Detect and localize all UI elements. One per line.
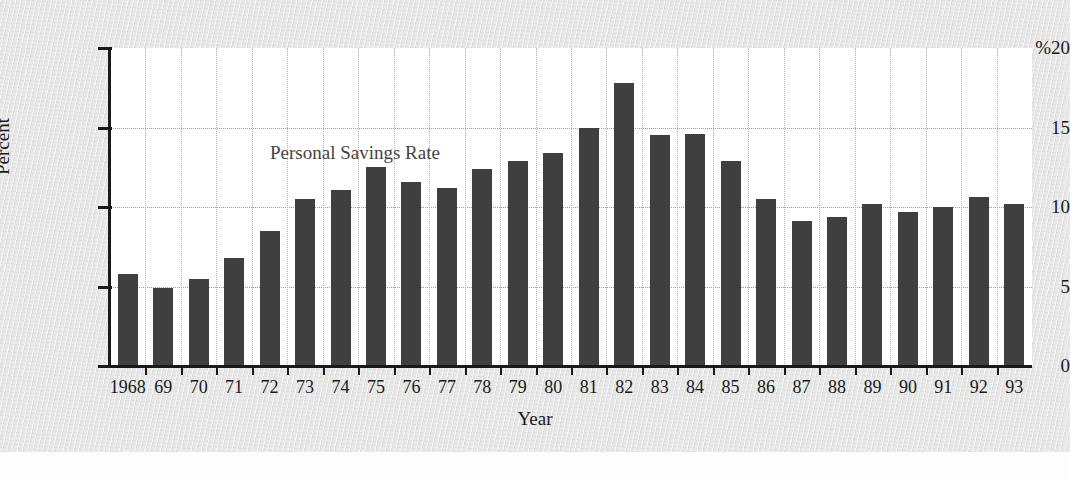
gridline-x-86 xyxy=(784,48,785,366)
x-tick-73 xyxy=(323,368,325,375)
bar-73[interactable] xyxy=(295,199,315,366)
gridline-x-79 xyxy=(536,48,537,366)
bar-76[interactable] xyxy=(401,182,421,366)
y-tick-label-15: 15 xyxy=(978,118,1070,137)
x-tick-81 xyxy=(606,368,608,375)
bar-85[interactable] xyxy=(721,161,741,366)
x-tick-90 xyxy=(926,368,928,375)
gridline-x-84 xyxy=(713,48,714,366)
gridline-x-70 xyxy=(216,48,217,366)
gridline-x-80 xyxy=(571,48,572,366)
x-tick-91 xyxy=(961,368,963,375)
gridline-x-75 xyxy=(394,48,395,366)
x-tick-77 xyxy=(465,368,467,375)
bar-74[interactable] xyxy=(331,190,351,366)
bar-88[interactable] xyxy=(827,217,847,366)
gridline-x-77 xyxy=(465,48,466,366)
x-tick-88 xyxy=(855,368,857,375)
y-tick-label-20: %20 xyxy=(978,38,1070,57)
bar-86[interactable] xyxy=(756,199,776,366)
y-tick-10 xyxy=(98,206,112,209)
figure-background-panel: 051015%20 196869707172737475767778798081… xyxy=(0,0,1070,452)
x-axis-title: Year xyxy=(0,408,1070,430)
bar-78[interactable] xyxy=(472,169,492,366)
x-tick-86 xyxy=(784,368,786,375)
bar-91[interactable] xyxy=(933,207,953,366)
bar-82[interactable] xyxy=(614,83,634,366)
x-tick-76 xyxy=(429,368,431,375)
y-tick-label-0: 0 xyxy=(978,356,1070,375)
bar-77[interactable] xyxy=(437,188,457,366)
plot-area xyxy=(110,48,1032,366)
gridline-x-78 xyxy=(500,48,501,366)
x-tick-89 xyxy=(890,368,892,375)
x-tick-69 xyxy=(181,368,183,375)
bar-87[interactable] xyxy=(792,221,812,366)
bar-75[interactable] xyxy=(366,167,386,366)
bar-69[interactable] xyxy=(153,288,173,366)
gridline-x-85 xyxy=(748,48,749,366)
y-tick-15 xyxy=(98,127,112,130)
gridline-x-89 xyxy=(890,48,891,366)
bar-80[interactable] xyxy=(543,153,563,366)
x-tick-82 xyxy=(642,368,644,375)
y-tick-0 xyxy=(98,365,112,368)
gridline-x-76 xyxy=(429,48,430,366)
chart-title: Personal Savings Rate xyxy=(270,142,440,164)
gridline-x-73 xyxy=(323,48,324,366)
gridline-x-87 xyxy=(819,48,820,366)
x-tick-83 xyxy=(677,368,679,375)
x-tick-label-93: 93 xyxy=(979,378,1050,396)
x-tick-85 xyxy=(748,368,750,375)
gridline-x-72 xyxy=(287,48,288,366)
x-tick-70 xyxy=(216,368,218,375)
gridline-x-91 xyxy=(961,48,962,366)
x-tick-84 xyxy=(713,368,715,375)
bar-70[interactable] xyxy=(189,279,209,366)
bar-72[interactable] xyxy=(260,231,280,366)
y-tick-20 xyxy=(98,47,112,50)
y-tick-label-10: 10 xyxy=(978,197,1070,216)
bar-79[interactable] xyxy=(508,161,528,366)
x-axis-line xyxy=(108,365,1032,368)
gridline-x-83 xyxy=(677,48,678,366)
x-tick-1968 xyxy=(145,368,147,375)
bar-1968[interactable] xyxy=(118,274,138,366)
gridline-x-74 xyxy=(358,48,359,366)
x-tick-92 xyxy=(997,368,999,375)
x-tick-72 xyxy=(287,368,289,375)
gridline-x-90 xyxy=(926,48,927,366)
bar-90[interactable] xyxy=(898,212,918,366)
x-tick-78 xyxy=(500,368,502,375)
gridline-x-88 xyxy=(855,48,856,366)
gridline-x-82 xyxy=(642,48,643,366)
x-tick-74 xyxy=(358,368,360,375)
gridline-x-71 xyxy=(252,48,253,366)
x-tick-87 xyxy=(819,368,821,375)
gridline-x-81 xyxy=(606,48,607,366)
y-tick-label-5: 5 xyxy=(978,277,1070,296)
bar-71[interactable] xyxy=(224,258,244,366)
gridline-x-69 xyxy=(181,48,182,366)
x-tick-79 xyxy=(536,368,538,375)
y-tick-5 xyxy=(98,286,112,289)
bar-89[interactable] xyxy=(862,204,882,366)
x-tick-80 xyxy=(571,368,573,375)
gridline-x-1968 xyxy=(145,48,146,366)
bar-83[interactable] xyxy=(650,135,670,366)
x-tick-71 xyxy=(252,368,254,375)
bar-84[interactable] xyxy=(685,134,705,366)
y-axis-title: Percent xyxy=(0,118,14,175)
figure-bottom-margin xyxy=(0,452,1070,480)
bar-81[interactable] xyxy=(579,128,599,367)
x-tick-75 xyxy=(394,368,396,375)
